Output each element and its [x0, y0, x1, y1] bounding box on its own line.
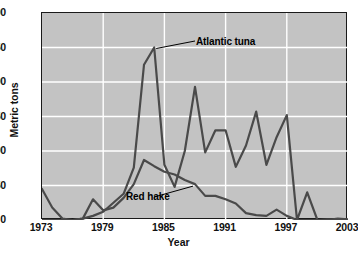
y-axis-tick-0: 0 — [0, 213, 6, 225]
x-axis-tick-1991: 1991 — [213, 221, 236, 233]
x-axis-tick-1997: 1997 — [275, 221, 298, 233]
x-axis-tick-1979: 1979 — [91, 221, 114, 233]
y-axis-tick-150: 150 — [0, 110, 6, 122]
x-axis-tick-2003: 2003 — [336, 221, 358, 233]
annotation-red-hake: Red hake — [126, 191, 170, 202]
x-axis-tick-1973: 1973 — [30, 221, 53, 233]
x-axis-title: Year — [0, 236, 357, 248]
x-axis-tick-1985: 1985 — [152, 221, 175, 233]
y-axis-title: Metric tons — [8, 65, 20, 155]
y-axis-tick-100: 100 — [0, 144, 6, 156]
y-axis-tick-300: 300 — [0, 6, 6, 18]
y-axis-tick-50: 50 — [0, 179, 6, 191]
y-axis-tick-200: 200 — [0, 75, 6, 87]
annotation-atlantic-tuna: Atlantic tuna — [196, 36, 255, 47]
y-axis-tick-250: 250 — [0, 41, 6, 53]
